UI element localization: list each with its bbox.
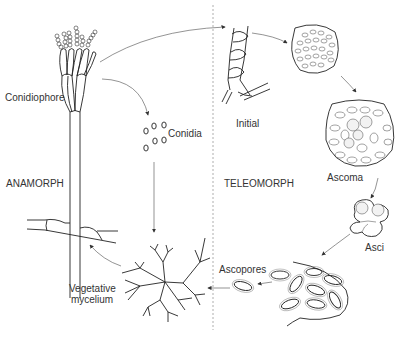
arrow-conidiophore-to-initial xyxy=(100,27,225,62)
asci-label: Asci xyxy=(365,242,384,253)
vegetative-mycelium-label-line2: mycelium xyxy=(69,294,115,305)
arrow-young-ascoma-to-ascoma xyxy=(341,76,356,92)
mycelium-drawing xyxy=(122,238,210,322)
arrow-ascospores-to-ascopores xyxy=(258,282,272,284)
conidiophore-drawing xyxy=(27,26,118,298)
teleomorph-label: TELEOMORPH xyxy=(224,178,294,189)
ascoma-label: Ascoma xyxy=(327,172,363,183)
conidia-drawing xyxy=(144,122,166,151)
diagram-drawing xyxy=(0,0,404,340)
anamorph-label: ANAMORPH xyxy=(6,178,64,189)
arrow-initial-to-young-ascoma xyxy=(252,33,287,43)
vegetative-mycelium-label: Vegetative mycelium xyxy=(69,283,115,305)
conidia-label: Conidia xyxy=(168,128,202,139)
initial-drawing xyxy=(222,26,270,104)
young-ascoma-drawing xyxy=(292,25,339,73)
arrow-ascoma-to-asci xyxy=(371,178,378,198)
arrow-mycelium-to-conidiophore xyxy=(90,245,121,266)
ascopores-label: Ascopores xyxy=(219,264,266,275)
ascoma-drawing xyxy=(326,100,394,166)
arrow-conidiophore-to-conidia xyxy=(102,79,148,115)
life-cycle-diagram: ANAMORPH TELEOMORPH Conidiophore Conidia… xyxy=(0,0,404,340)
conidiophore-label: Conidiophore xyxy=(5,92,65,103)
arrow-asci-to-ascospores xyxy=(322,234,350,255)
asci-drawing xyxy=(350,200,388,237)
vegetative-mycelium-label-line1: Vegetative xyxy=(69,283,115,294)
initial-label: Initial xyxy=(236,118,259,129)
